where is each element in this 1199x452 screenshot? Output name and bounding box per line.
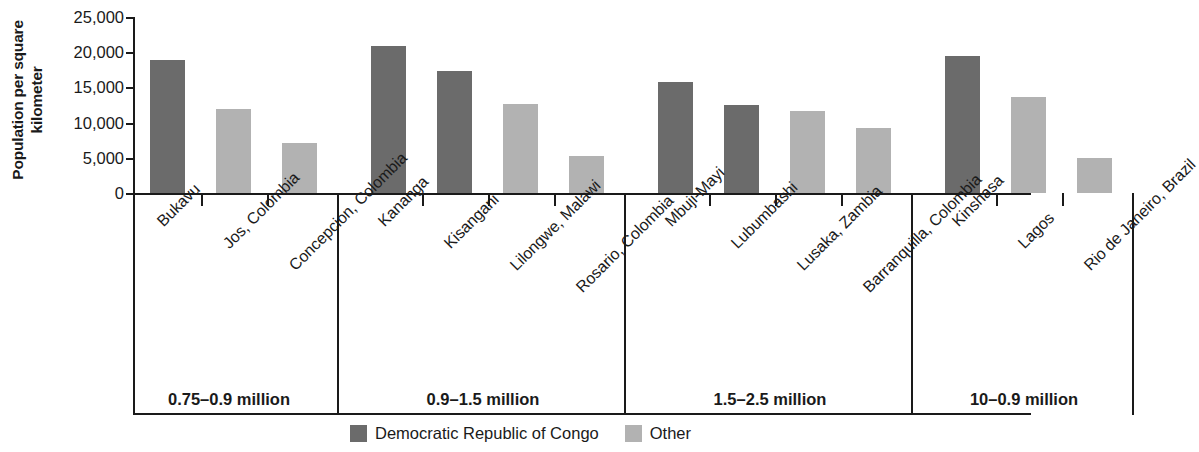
bar — [150, 60, 185, 193]
legend-swatch-drc — [350, 425, 367, 442]
group-frame — [133, 193, 1031, 415]
bar — [790, 111, 825, 193]
y-axis-title: Population per square kilometer — [0, 0, 56, 200]
group-frame-bottom-rule — [133, 413, 1031, 415]
x-axis-tick — [1062, 193, 1064, 206]
bar — [216, 109, 251, 193]
bar — [1011, 97, 1046, 193]
y-axis-tick-label: 25,000 — [74, 8, 124, 27]
bar — [437, 71, 472, 193]
legend-item: Democratic Republic of Congo — [350, 424, 599, 443]
bar — [503, 104, 538, 193]
bar — [1077, 158, 1112, 193]
y-axis-tick-label: 0 — [115, 184, 124, 203]
y-axis-tick — [126, 123, 134, 125]
y-axis-tick-label: 15,000 — [74, 78, 124, 97]
y-axis-tick-labels: 05,00010,00015,00020,00025,000 — [58, 17, 124, 193]
group-separator — [911, 193, 913, 415]
bar — [724, 105, 759, 193]
y-axis-tick-label: 10,000 — [74, 113, 124, 132]
group-separator — [133, 193, 135, 415]
y-axis-tick — [126, 17, 134, 19]
y-axis-tick-label: 5,000 — [83, 148, 124, 167]
y-axis-tick — [126, 52, 134, 54]
bar — [658, 82, 693, 193]
chart-legend: Democratic Republic of CongoOther — [0, 424, 1041, 443]
legend-label: Other — [650, 424, 691, 443]
y-axis-title-line-1: Population per square — [9, 20, 26, 179]
y-axis-tick — [126, 158, 134, 160]
legend-swatch-other — [625, 425, 642, 442]
legend-label: Democratic Republic of Congo — [375, 424, 599, 443]
plot-area — [133, 17, 1031, 193]
y-axis-title-text: Population per square kilometer — [9, 20, 47, 179]
legend-item: Other — [625, 424, 691, 443]
group-separator — [624, 193, 626, 415]
y-axis-tick-label: 20,000 — [74, 43, 124, 62]
y-axis-tick — [126, 87, 134, 89]
y-axis-line — [133, 17, 135, 194]
y-axis-title-line-2: kilometer — [28, 66, 45, 133]
